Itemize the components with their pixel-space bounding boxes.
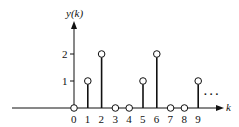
stem-marker-3	[112, 105, 119, 112]
x-tick-label-4: 4	[126, 114, 132, 125]
stem-marker-7	[167, 105, 174, 112]
x-tick-label-5: 5	[140, 114, 146, 125]
continuation-dots: ...	[204, 86, 221, 97]
x-tick-label-6: 6	[154, 114, 160, 125]
x-tick-label-0: 0	[71, 114, 77, 125]
stem-marker-8	[181, 105, 188, 112]
x-tick-label-9: 9	[195, 114, 201, 125]
x-tick-label-1: 1	[85, 114, 91, 125]
y-tick-label-1: 1	[62, 76, 68, 87]
stem-marker-6	[154, 51, 161, 58]
stem-marker-5	[140, 78, 147, 85]
x-tick-label-3: 3	[112, 114, 118, 125]
plot-area	[0, 0, 239, 127]
x-axis-label: k	[226, 102, 231, 113]
y-axis-label: y(k)	[66, 8, 83, 19]
stem-marker-2	[98, 51, 105, 58]
stem-plot: y(k) k 1 2 0123456789 ...	[0, 0, 239, 127]
stem-marker-0	[71, 105, 78, 112]
y-axis-arrow-icon	[71, 21, 77, 29]
x-axis-arrow-icon	[216, 105, 224, 111]
x-tick-label-7: 7	[168, 114, 174, 125]
stem-marker-4	[126, 105, 133, 112]
x-tick-label-2: 2	[99, 114, 105, 125]
stem-marker-1	[85, 78, 92, 85]
stem-marker-9	[195, 78, 202, 85]
y-tick-label-2: 2	[62, 49, 68, 60]
x-tick-label-8: 8	[181, 114, 187, 125]
y-axis-label-text: y(k)	[66, 7, 83, 19]
